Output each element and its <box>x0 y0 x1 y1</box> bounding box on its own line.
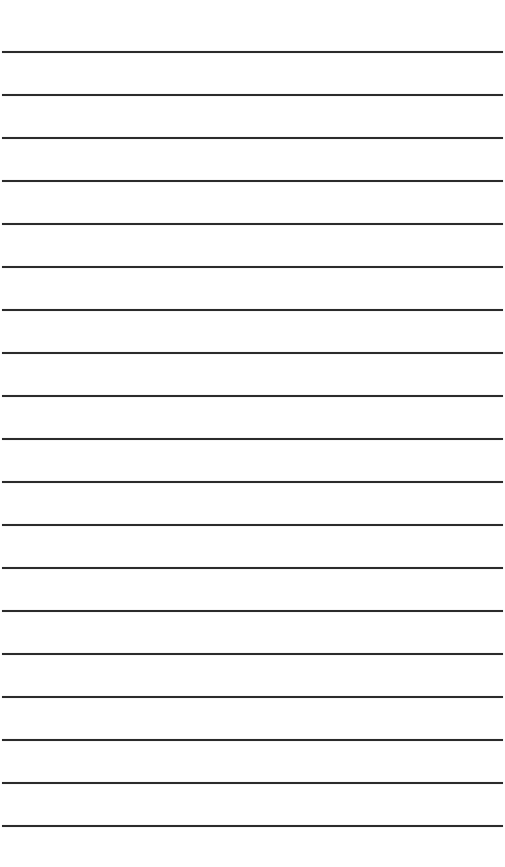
ruled-line <box>2 610 503 612</box>
ruled-line <box>2 696 503 698</box>
ruled-line <box>2 395 503 397</box>
lined-paper <box>0 0 505 867</box>
ruled-line <box>2 825 503 827</box>
ruled-line <box>2 352 503 354</box>
ruled-line <box>2 524 503 526</box>
ruled-line <box>2 481 503 483</box>
ruled-line <box>2 266 503 268</box>
ruled-line <box>2 653 503 655</box>
ruled-line <box>2 94 503 96</box>
ruled-line <box>2 438 503 440</box>
ruled-line <box>2 739 503 741</box>
ruled-line <box>2 223 503 225</box>
ruled-line <box>2 782 503 784</box>
ruled-line <box>2 567 503 569</box>
ruled-line <box>2 137 503 139</box>
ruled-line <box>2 180 503 182</box>
ruled-line <box>2 309 503 311</box>
ruled-line <box>2 51 503 53</box>
